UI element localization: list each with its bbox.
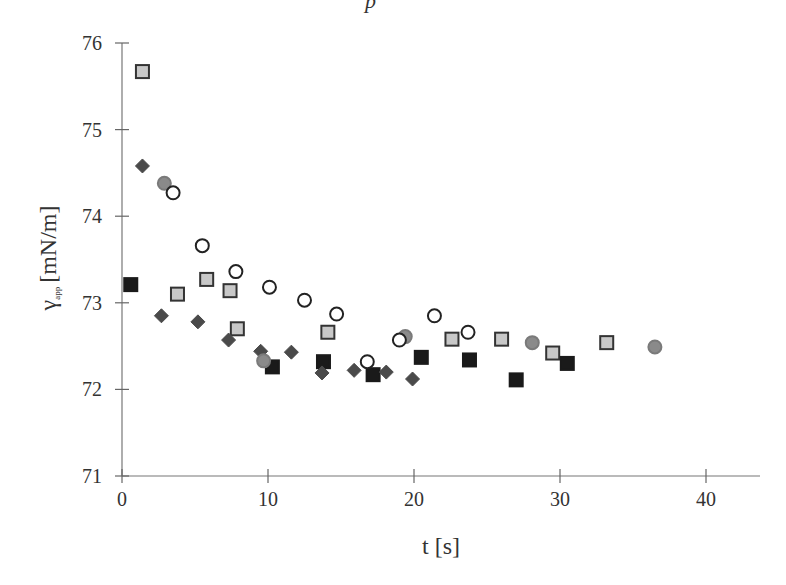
axes: 717273747576010203040 — [82, 32, 760, 510]
data-point-circle — [393, 334, 406, 347]
data-point-diamond — [191, 315, 205, 329]
data-point-square — [445, 333, 458, 346]
data-point-square — [136, 65, 149, 78]
x-tick-label: 0 — [117, 488, 127, 510]
data-point-circle — [526, 336, 539, 349]
scatter-chart: 717273747576010203040 t [s] γapp[mN/m] — [0, 0, 786, 585]
y-tick-label: 74 — [82, 205, 102, 227]
data-point-diamond — [284, 345, 298, 359]
data-point-square — [510, 373, 523, 386]
series-light-gray-squares — [136, 65, 613, 359]
data-point-circle — [298, 294, 311, 307]
y-axis-subscript: app — [52, 286, 62, 299]
y-tick-label: 75 — [82, 119, 102, 141]
x-tick-label: 10 — [258, 488, 278, 510]
data-point-diamond — [135, 159, 149, 173]
data-point-square — [171, 288, 184, 301]
data-point-square — [317, 355, 330, 368]
y-tick-label: 71 — [82, 465, 102, 487]
data-point-square — [124, 278, 137, 291]
data-point-diamond — [406, 372, 420, 386]
data-point-square — [561, 357, 574, 370]
data-point-circle — [462, 326, 475, 339]
data-point-circle — [196, 239, 209, 252]
data-point-circle — [257, 354, 270, 367]
data-point-circle — [263, 281, 276, 294]
data-point-circle — [330, 308, 343, 321]
data-point-diamond — [347, 363, 361, 377]
x-axis-title: t [s] — [422, 533, 460, 559]
data-point-square — [415, 351, 428, 364]
y-axis-unit: [mN/m] — [35, 206, 61, 283]
data-points — [124, 65, 661, 386]
svg-text:γapp[mN/m]: γapp[mN/m] — [35, 206, 62, 312]
data-point-circle — [229, 265, 242, 278]
data-point-square — [200, 273, 213, 286]
data-point-square — [463, 353, 476, 366]
y-tick-label: 73 — [82, 292, 102, 314]
data-point-circle — [648, 340, 661, 353]
x-tick-label: 20 — [404, 488, 424, 510]
data-point-square — [367, 368, 380, 381]
data-point-square — [231, 322, 244, 335]
y-tick-label: 76 — [82, 32, 102, 54]
data-point-square — [224, 284, 237, 297]
data-point-square — [600, 336, 613, 349]
y-tick-label: 72 — [82, 378, 102, 400]
y-axis-title: γapp[mN/m] — [35, 206, 62, 312]
data-point-square — [495, 333, 508, 346]
data-point-circle — [167, 186, 180, 199]
data-point-diamond — [154, 309, 168, 323]
data-point-square — [321, 326, 334, 339]
data-point-diamond — [379, 365, 393, 379]
x-tick-label: 30 — [550, 488, 570, 510]
y-axis-symbol: γ — [35, 299, 61, 311]
data-point-circle — [428, 309, 441, 322]
data-point-square — [546, 347, 559, 360]
x-tick-label: 40 — [696, 488, 716, 510]
data-point-circle — [361, 355, 374, 368]
